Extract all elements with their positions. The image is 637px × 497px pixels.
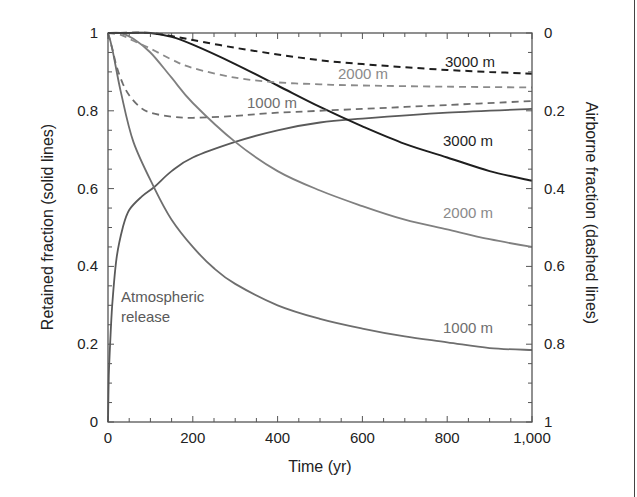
y2-tick-label: 1 — [544, 413, 552, 430]
label-3000m-dashed: 3000 m — [445, 53, 495, 70]
x-tick-label: 600 — [350, 429, 375, 446]
x-tick-label: 400 — [265, 429, 290, 446]
x-tick-label: 1,000 — [513, 429, 551, 446]
y-tick-label: 0.6 — [77, 180, 98, 197]
plot-frame — [108, 33, 532, 422]
x-axis-title: Time (yr) — [288, 458, 351, 475]
y2-tick-label: 0.6 — [544, 257, 565, 274]
label-2000m-solid: 2000 m — [443, 204, 493, 221]
label-atmospheric-release-1: Atmospheric — [121, 288, 205, 305]
x-tick-label: 0 — [104, 429, 112, 446]
y2-tick-label: 0 — [544, 24, 552, 41]
label-2000m-dashed: 2000 m — [338, 65, 388, 82]
x-tick-label: 200 — [180, 429, 205, 446]
chart: 02004006008001,00000.20.40.60.8110.80.60… — [0, 0, 637, 497]
y-tick-label: 1 — [90, 24, 98, 41]
label-1000m-solid: 1000 m — [443, 319, 493, 336]
y-tick-label: 0.2 — [77, 335, 98, 352]
y2-axis-title: Airborne fraction (dashed lines) — [583, 102, 600, 324]
y2-tick-label: 0.4 — [544, 180, 565, 197]
x-tick-label: 800 — [435, 429, 460, 446]
label-atmospheric-release-2: release — [121, 308, 170, 325]
curves — [108, 33, 532, 422]
y-tick-label: 0.4 — [77, 257, 98, 274]
page-edge-line — [634, 0, 635, 497]
y-axis-title: Retained fraction (solid lines) — [39, 124, 56, 330]
y2-tick-label: 0.2 — [544, 102, 565, 119]
y-tick-label: 0.8 — [77, 102, 98, 119]
label-1000m-dashed: 1000 m — [247, 94, 297, 111]
y-tick-label: 0 — [90, 413, 98, 430]
solid-curve-atmospheric-release — [108, 109, 532, 422]
label-3000m-solid: 3000 m — [443, 132, 493, 149]
dashed-curve-1000-m — [108, 33, 532, 118]
y2-tick-label: 0.8 — [544, 335, 565, 352]
axis-ticks: 02004006008001,00000.20.40.60.8110.80.60… — [77, 24, 565, 446]
